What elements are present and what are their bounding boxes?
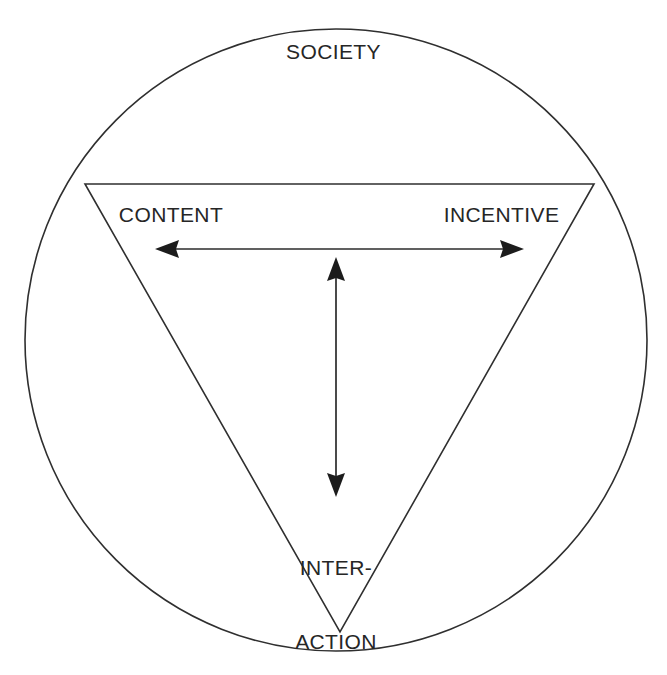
interaction-label-line-1: INTER- bbox=[206, 556, 466, 581]
interaction-label: INTER- ACTION bbox=[206, 506, 466, 675]
arrow-head-down-icon bbox=[327, 473, 345, 497]
content-label: CONTENT bbox=[0, 203, 342, 228]
content-incentive-arrow bbox=[155, 240, 524, 258]
diagram-canvas: SOCIETY CONTENT INCENTIVE INTER- ACTION bbox=[0, 0, 667, 675]
incentive-label: INCENTIVE bbox=[336, 203, 667, 228]
society-label: SOCIETY bbox=[0, 40, 667, 65]
interaction-arrow bbox=[327, 257, 345, 497]
interaction-label-line-2: ACTION bbox=[206, 630, 466, 655]
arrow-head-up-icon bbox=[327, 257, 345, 281]
arrow-head-right-icon bbox=[500, 240, 524, 258]
arrow-head-left-icon bbox=[155, 240, 179, 258]
